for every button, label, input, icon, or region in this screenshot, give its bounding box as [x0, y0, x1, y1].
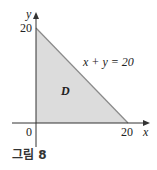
- region-label: D: [61, 85, 70, 97]
- y-tick-label: 20: [20, 22, 32, 34]
- line-equation-label: x + y = 20: [83, 56, 134, 68]
- y-axis-arrow-icon: [33, 12, 39, 19]
- x-axis-label: x: [143, 126, 148, 138]
- origin-label: 0: [26, 126, 32, 138]
- x-tick-label: 20: [121, 126, 133, 138]
- y-axis-label: y: [26, 8, 31, 20]
- figure-caption: 그림 8: [12, 145, 47, 162]
